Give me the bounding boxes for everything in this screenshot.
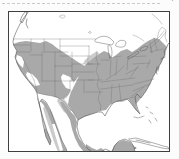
jamaica-island [162,153,165,155]
page: ’ [0,0,179,159]
us-range-map [0,0,179,159]
